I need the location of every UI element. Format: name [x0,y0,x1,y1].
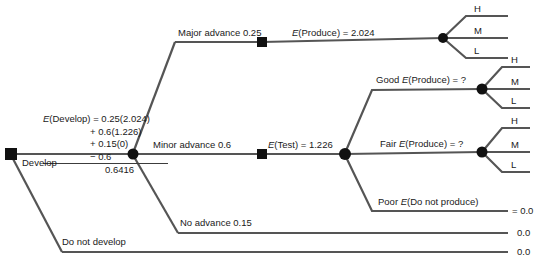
outcome-label-top-l: L [474,45,479,57]
node-label-good-e-produce: Good E(Produce) = ? [376,74,466,86]
e-develop-calculation: E(Develop) = 0.25(2.024) + 0.6(1.226) + … [43,113,168,177]
outcome-label-good-m: M [511,76,519,88]
branch-label-major-advance: Major advance 0.25 [178,27,261,39]
node-label-fair-e-produce: Fair E(Produce) = ? [380,138,463,150]
edge-good-outcome-h [482,67,530,89]
outcome-label-good-h: H [511,54,518,66]
edge-fair-outcome-l [482,152,530,172]
outcome-label-fair-l: L [511,159,516,171]
node-label-e-produce-top: E(Produce) = 2.024 [292,27,375,39]
calc-line-2: + 0.6(1.226) [43,126,168,139]
chance-node-good-outcome[interactable] [477,84,488,95]
outcome-label-top-m: M [474,25,482,37]
edge-fair-outcome-h [482,128,530,152]
calc-line-1: E(Develop) = 0.25(2.024) [43,113,168,126]
outcome-label-fair-h: H [511,115,518,127]
decision-node-test[interactable] [257,149,267,159]
calc-line-3: + 0.15(0) [43,138,168,151]
terminal-value-poor: = 0.0 [512,205,533,217]
edge-fair [345,152,482,154]
outcome-label-fair-m: M [511,139,519,151]
node-label-e-test: E(Test) = 1.226 [268,139,333,151]
branch-label-minor-advance: Minor advance 0.6 [153,139,231,151]
edge-good-outcome-l [482,89,530,108]
chance-node-test-result[interactable] [339,148,351,160]
terminal-value-do-not-develop: 0.0 [517,246,530,258]
node-label-poor-do-not-produce: Poor E(Do not produce) [378,196,478,208]
outcome-label-good-l: L [511,95,516,107]
calc-line-4: − 0.6 [43,151,168,165]
branch-label-develop: Develop [22,157,57,169]
branch-label-no-advance: No advance 0.15 [180,217,252,229]
terminal-value-no-advance: 0.0 [517,227,530,239]
decision-node-root[interactable] [5,148,17,160]
chance-node-produce-top-outcome[interactable] [438,33,448,43]
outcome-label-top-h: H [474,3,481,15]
calc-line-total: 0.6416 [43,164,168,177]
chance-node-fair-outcome[interactable] [477,147,488,158]
branch-label-do-not-develop: Do not develop [62,236,126,248]
decision-tree-diagram: E(Develop) = 0.25(2.024) + 0.6(1.226) + … [0,0,543,265]
